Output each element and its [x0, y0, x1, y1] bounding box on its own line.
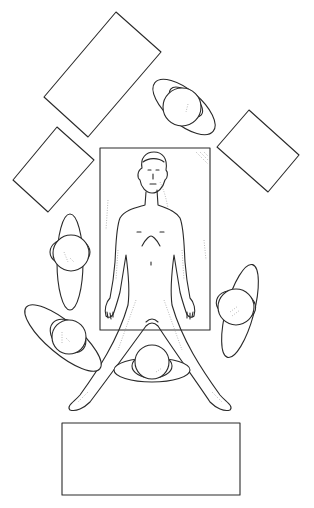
staff-top-right [144, 70, 224, 145]
staff-head [218, 289, 254, 325]
staff-bottom-left [16, 295, 110, 381]
staff-bottom-center [114, 345, 190, 382]
instrument-table-top-left [44, 12, 161, 137]
staff-right-middle [213, 261, 266, 361]
staff-head [53, 235, 89, 271]
staff-head [52, 320, 86, 354]
diagram-svg [0, 0, 314, 508]
instrument-table-bottom [62, 423, 240, 495]
instrument-table-right [217, 110, 299, 192]
table-shading [106, 152, 208, 260]
staff-head [163, 88, 201, 126]
staff-head [135, 345, 169, 379]
operating-room-diagram [0, 0, 314, 508]
staff-left-middle [50, 214, 90, 310]
instrument-table-left [13, 127, 94, 212]
